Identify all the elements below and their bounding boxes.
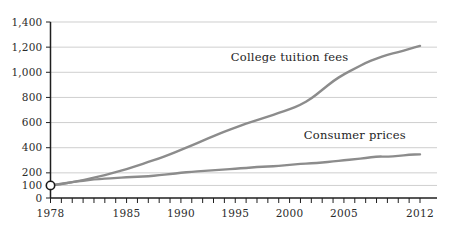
- line-chart: 01002004006008001,0001,2001,400 19781985…: [0, 0, 457, 240]
- y-tick-label-800: 800: [22, 91, 43, 103]
- y-tick-label-600: 600: [22, 116, 43, 128]
- y-tick-label-1200: 1,200: [11, 41, 42, 53]
- y-tick-label-400: 400: [22, 141, 43, 153]
- origin-marker-circle: [46, 181, 54, 189]
- y-tick-label-100: 100: [22, 179, 43, 191]
- y-tick-label-200: 200: [22, 166, 43, 178]
- y-tick-label-1000: 1,000: [11, 66, 42, 78]
- y-tick-label-1400: 1,400: [11, 16, 42, 28]
- chart-background: [0, 0, 457, 240]
- chart-figure: 01002004006008001,0001,2001,400 19781985…: [0, 0, 457, 240]
- origin-marker: [46, 181, 54, 189]
- series-label-college-tuition-fees: College tuition fees: [231, 50, 348, 64]
- x-tick-label-2005: 2005: [330, 207, 358, 219]
- x-tick-label-2000: 2000: [276, 207, 304, 219]
- y-tick-label-0: 0: [36, 192, 43, 204]
- x-tick-label-1985: 1985: [113, 207, 141, 219]
- x-tick-label-1995: 1995: [221, 207, 249, 219]
- x-tick-label-2012: 2012: [406, 207, 434, 219]
- series-label-consumer-prices: Consumer prices: [304, 128, 406, 142]
- x-tick-label-1990: 1990: [167, 207, 195, 219]
- x-tick-label-1978: 1978: [37, 207, 65, 219]
